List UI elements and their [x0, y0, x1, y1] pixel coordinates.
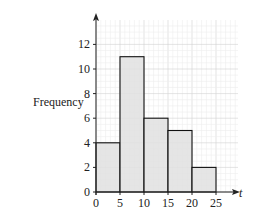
- y-tick-label: 8: [84, 87, 90, 101]
- y-tick-label: 0: [84, 185, 90, 199]
- y-tick-label: 4: [84, 136, 90, 150]
- histogram-bar: [144, 118, 168, 192]
- y-tick-label: 2: [84, 160, 90, 174]
- y-tick-labels: 024681012: [78, 37, 96, 199]
- histogram-bar: [96, 143, 120, 192]
- y-axis-title: Frequency: [33, 95, 84, 110]
- x-tick-label: 25: [210, 196, 222, 210]
- y-axis-arrow-icon: [93, 13, 99, 21]
- y-tick-label: 6: [84, 111, 90, 125]
- x-axis-title: t: [239, 186, 243, 200]
- histogram-chart: 0510152025 024681012 t: [0, 0, 256, 220]
- x-tick-label: 5: [117, 196, 123, 210]
- x-tick-labels: 0510152025: [93, 192, 222, 210]
- histogram-bar: [120, 57, 144, 192]
- x-tick-label: 20: [186, 196, 198, 210]
- histogram-bar: [192, 167, 216, 192]
- histogram-bar: [168, 131, 192, 193]
- x-tick-label: 15: [162, 196, 174, 210]
- y-tick-label: 12: [78, 37, 90, 51]
- x-tick-label: 0: [93, 196, 99, 210]
- y-tick-label: 10: [78, 62, 90, 76]
- x-tick-label: 10: [138, 196, 150, 210]
